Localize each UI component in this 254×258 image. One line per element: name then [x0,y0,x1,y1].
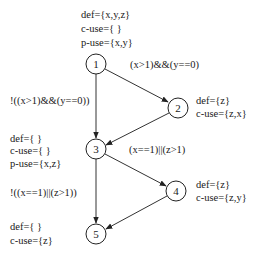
node-4-def: def={z} [196,179,230,190]
node-label: 2 [175,102,181,114]
node-1-p-use: p-use={x,y} [81,37,133,48]
node-5-c-use: c-use={z} [10,235,53,246]
node-1: 1 [86,54,106,74]
node-3-def: def={ } [10,133,42,144]
control-flow-graph: (x>1)&&(y==0) !((x>1)&&(y==0)) (x==1)||(… [0,0,254,258]
node-3: 3 [86,139,106,159]
node-label: 3 [93,143,99,155]
node-3-c-use: c-use={ } [10,145,51,156]
edge-1-to-2 [105,69,168,102]
edge-label-3-to-4: (x==1)||(z>1) [129,144,186,156]
edge-label-1-to-2: (x>1)&&(y==0) [130,59,200,71]
node-1-def: def={x,y,z} [81,9,130,20]
node-1-c-use: c-use={ } [81,23,122,34]
node-2-def: def={z} [196,95,230,106]
node-label: 4 [173,185,179,197]
node-label: 5 [93,228,99,240]
edge-4-to-5 [106,196,167,229]
edge-label-3-to-5: !((x==1)||(z>1)) [10,187,77,199]
node-2-c-use: c-use={z,x} [196,108,247,119]
edge-2-to-3 [106,113,169,145]
node-3-p-use: p-use={x,z} [10,158,61,169]
node-label: 1 [93,58,99,70]
node-4: 4 [166,181,186,201]
node-2: 2 [168,98,188,118]
edge-label-1-to-3: !((x>1)&&(y==0)) [10,95,90,107]
node-5-def: def={ } [10,221,42,232]
edge-3-to-4 [105,154,166,186]
node-5: 5 [86,224,106,244]
node-4-c-use: c-use={z,y} [196,192,247,203]
